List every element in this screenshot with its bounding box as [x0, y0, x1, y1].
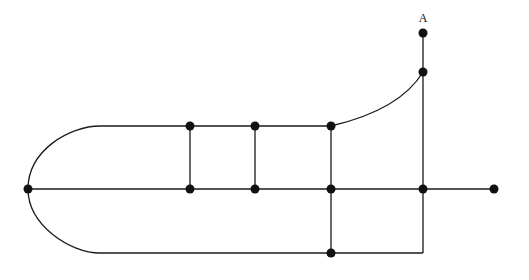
node-left [24, 185, 33, 194]
node-a [419, 29, 428, 38]
nodes [24, 29, 499, 258]
node-label-a: A [419, 11, 428, 25]
edge-left-top-curve [28, 126, 100, 189]
node-p1 [186, 122, 195, 131]
edges [28, 33, 494, 253]
node-q3 [327, 185, 336, 194]
node-p3 [327, 122, 336, 131]
node-q1 [186, 185, 195, 194]
node-q2 [251, 185, 260, 194]
node-p2 [251, 122, 260, 131]
node-b3 [327, 249, 336, 258]
node-r1 [419, 185, 428, 194]
edge-left-bottom-curve [28, 189, 100, 253]
graph-diagram: A [0, 0, 529, 280]
node-n1 [419, 68, 428, 77]
node-end [490, 185, 499, 194]
edge-n1-p3-curve [331, 72, 423, 126]
